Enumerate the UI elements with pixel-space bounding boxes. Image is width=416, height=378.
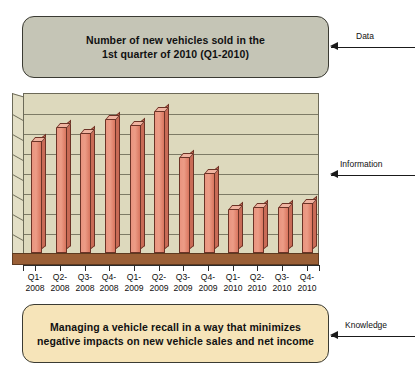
chart-bar-side	[313, 196, 317, 249]
chart-x-tick	[208, 265, 209, 271]
arrow-line	[331, 336, 415, 337]
chart-bar-side	[215, 166, 219, 249]
chart-x-axis-ticks	[23, 265, 319, 271]
data-callout-line1: Number of new vehicles sold in the	[86, 34, 265, 46]
chart-x-tick	[319, 265, 320, 271]
annotation-data: Data	[331, 33, 415, 55]
chart-bar-face	[204, 173, 215, 253]
left-arrow-icon	[330, 331, 338, 339]
arrow-line	[331, 47, 415, 48]
chart-x-tick	[85, 265, 86, 271]
data-callout-text: Number of new vehicles sold in the 1st q…	[86, 33, 265, 61]
chart-x-axis-labels: Q1-2008Q2-2008Q3-2008Q4-2008Q1-2009Q2-20…	[23, 272, 323, 298]
chart-left-wall	[12, 93, 23, 256]
chart-bar-face	[80, 133, 91, 253]
annotation-information-label: Information	[340, 159, 383, 169]
chart-bar	[253, 207, 264, 253]
chart-x-tick	[233, 265, 234, 271]
chart-bar	[204, 173, 215, 253]
left-arrow-icon	[330, 170, 338, 178]
chart-bar	[56, 127, 67, 253]
chart-bar	[228, 209, 239, 253]
chart-x-tick	[257, 265, 258, 271]
chart-bar-face	[105, 119, 116, 253]
knowledge-callout-text: Managing a vehicle recall in a way that …	[37, 320, 314, 348]
chart-x-tick	[134, 265, 135, 271]
chart-bar-side	[67, 120, 71, 249]
chart-bar-side	[190, 150, 194, 249]
chart-bar	[105, 119, 116, 253]
chart-x-tick	[109, 265, 110, 271]
knowledge-callout-line2: negative impacts on new vehicle sales an…	[37, 334, 314, 348]
chart-bar	[278, 207, 289, 253]
chart-bar-face	[31, 141, 42, 253]
chart-bar	[31, 141, 42, 253]
chart-x-tick	[60, 265, 61, 271]
chart-bar-side	[141, 118, 145, 249]
chart-bar-face	[302, 203, 313, 253]
chart-x-tick	[282, 265, 283, 271]
chart-bar	[154, 111, 165, 253]
data-callout-box: Number of new vehicles sold in the 1st q…	[22, 16, 329, 78]
chart-floor	[12, 253, 319, 265]
chart-bar-side	[165, 104, 169, 249]
chart-x-tick	[159, 265, 160, 271]
chart-gridline	[24, 114, 318, 115]
annotation-information: Information	[331, 161, 415, 183]
knowledge-callout-box: Managing a vehicle recall in a way that …	[22, 304, 329, 363]
chart-x-label: Q4-2010	[292, 272, 322, 294]
data-callout-line2: 1st quarter of 2010 (Q1-2010)	[86, 47, 265, 61]
chart-bar-face	[179, 157, 190, 253]
chart-bar	[130, 125, 141, 253]
chart-x-tick	[35, 265, 36, 271]
chart-bar	[80, 133, 91, 253]
chart-plot-area	[23, 93, 319, 253]
annotation-knowledge: Knowledge	[331, 322, 415, 344]
chart-bar	[179, 157, 190, 253]
chart-bar-face	[228, 209, 239, 253]
chart-x-tick	[183, 265, 184, 271]
chart-bar-side	[116, 112, 120, 249]
chart-bar-face	[154, 111, 165, 253]
left-arrow-icon	[330, 42, 338, 50]
chart-x-tick	[307, 265, 308, 271]
knowledge-callout-line1: Managing a vehicle recall in a way that …	[50, 321, 301, 333]
annotation-data-label: Data	[356, 31, 374, 41]
bar-chart: Q1-2008Q2-2008Q3-2008Q4-2008Q1-2009Q2-20…	[12, 93, 330, 293]
chart-bar	[302, 203, 313, 253]
chart-bar-side	[91, 126, 95, 249]
chart-bar-face	[253, 207, 264, 253]
chart-bar-face	[56, 127, 67, 253]
chart-bar-face	[278, 207, 289, 253]
chart-bar-side	[42, 134, 46, 249]
arrow-line	[331, 175, 415, 176]
annotation-knowledge-label: Knowledge	[345, 320, 387, 330]
chart-x-tick	[23, 265, 24, 271]
chart-bar-face	[130, 125, 141, 253]
